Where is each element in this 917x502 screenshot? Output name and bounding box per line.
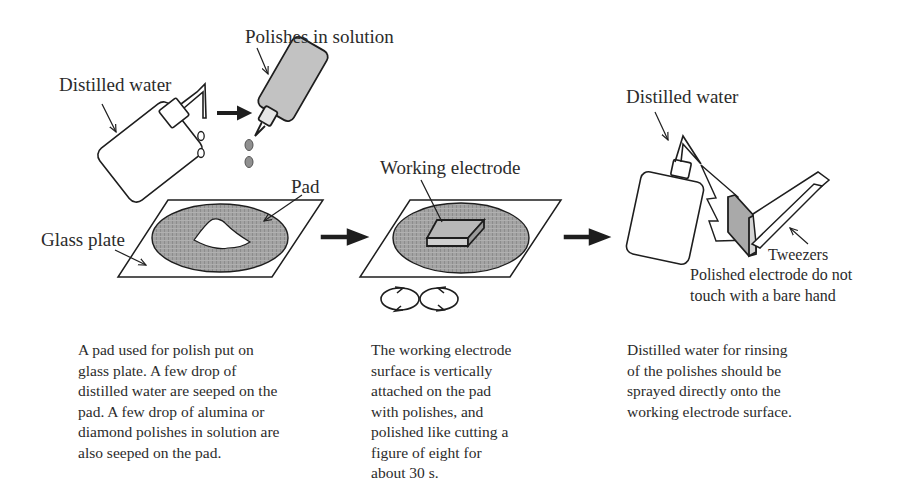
wash-bottle-icon: [94, 84, 206, 206]
step-arrow-icon: [565, 230, 608, 244]
leader-arrow: [102, 104, 116, 132]
step3-description: Distilled water for rinsing of the polis…: [627, 340, 792, 422]
label-working-electrode: Working electrode: [380, 158, 520, 177]
leader-arrow: [790, 228, 808, 244]
working-electrode-icon: [728, 195, 756, 256]
polish-drop-icon: [245, 157, 253, 168]
label-polishes-in-solution: Polishes in solution: [245, 27, 394, 46]
step1-description: A pad used for polish put on glass plate…: [78, 340, 279, 463]
polish-drop-icon: [245, 140, 253, 151]
label-tweezers: Tweezers: [768, 247, 828, 263]
water-drop-icon: [198, 149, 204, 158]
label-distilled-water-step1: Distilled water: [59, 75, 171, 94]
step2-description: The working electrode surface is vertica…: [371, 340, 511, 484]
label-pad: Pad: [291, 177, 320, 196]
step-arrow-icon: [322, 230, 366, 244]
water-drop-icon: [198, 132, 204, 141]
leader-arrow: [655, 112, 668, 140]
tweezers-icon: [752, 172, 829, 248]
right-arrow-icon: [218, 107, 250, 119]
label-glass-plate: Glass plate: [41, 230, 125, 249]
step1-illustration: [94, 34, 330, 277]
step3-illustration: [625, 112, 829, 266]
note-do-not-touch: Polished electrode do not touch with a b…: [690, 264, 852, 306]
figure-eight-motion-icon: [381, 287, 458, 311]
polish-bottle-icon: [255, 34, 330, 136]
step2-illustration: [360, 180, 561, 311]
label-distilled-water-step3: Distilled water: [626, 87, 738, 106]
wash-bottle-icon: [625, 136, 705, 266]
leader-arrow: [257, 48, 268, 74]
